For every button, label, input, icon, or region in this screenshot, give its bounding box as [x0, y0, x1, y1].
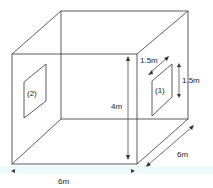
window1-height-dimension [177, 63, 181, 98]
depth-label: 6m [177, 150, 188, 159]
floor-band [0, 166, 213, 174]
depth-dimension [146, 125, 194, 167]
window1-height-label: 1.5m [182, 76, 200, 85]
room-diagram: (2) (1) 1.5m 1.5m 4m 6m 6m [0, 0, 213, 188]
height-dimension [126, 56, 130, 160]
width-label: 6m [58, 177, 69, 186]
window-2-label: (2) [27, 89, 37, 98]
window-1-label: (1) [155, 86, 165, 95]
window1-width-label: 1.5m [140, 56, 158, 65]
height-label: 4m [111, 102, 122, 111]
